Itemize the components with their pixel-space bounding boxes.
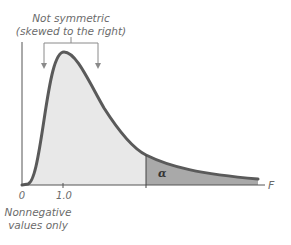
annotation-top-line2: (skewed to the right) [16,25,126,37]
f-distribution-diagram: Not symmetric (skewed to the right) 0 1.… [0,0,291,245]
alpha-label: α [158,167,167,180]
annotation-bottom-line1: Nonnegative [5,206,72,218]
x-axis-label-f: F [268,179,275,192]
annotation-bottom-line2: values only [8,219,68,231]
tick-label-1: 1.0 [56,190,72,201]
arrow-left-icon [41,63,47,69]
annotation-top-line1: Not symmetric [32,12,110,24]
arrow-right-icon [95,63,101,69]
origin-label: 0 [19,190,25,201]
